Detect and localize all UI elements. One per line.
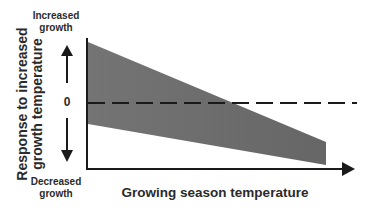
x-axis-title: Growing season temperature <box>110 185 320 201</box>
response-diagram: Response to increased growth temperature… <box>0 0 372 214</box>
up-arrow-icon <box>61 45 73 56</box>
increased-growth-line2: growth <box>22 22 90 34</box>
down-arrow-icon <box>61 150 73 162</box>
decreased-growth-line1: Decreased <box>22 176 90 188</box>
zero-label: 0 <box>60 96 74 108</box>
x-axis-arrowhead-icon <box>342 162 355 176</box>
y-axis-title-line1: Response to increased <box>15 24 30 184</box>
decreased-growth-label: Decreased growth <box>22 176 90 200</box>
y-axis-title: Response to increased growth temperature <box>15 24 45 184</box>
y-axis-title-line2: growth temperature <box>30 24 45 184</box>
decreased-growth-line2: growth <box>22 188 90 200</box>
increased-growth-line1: Increased <box>22 10 90 22</box>
increased-growth-label: Increased growth <box>22 10 90 34</box>
